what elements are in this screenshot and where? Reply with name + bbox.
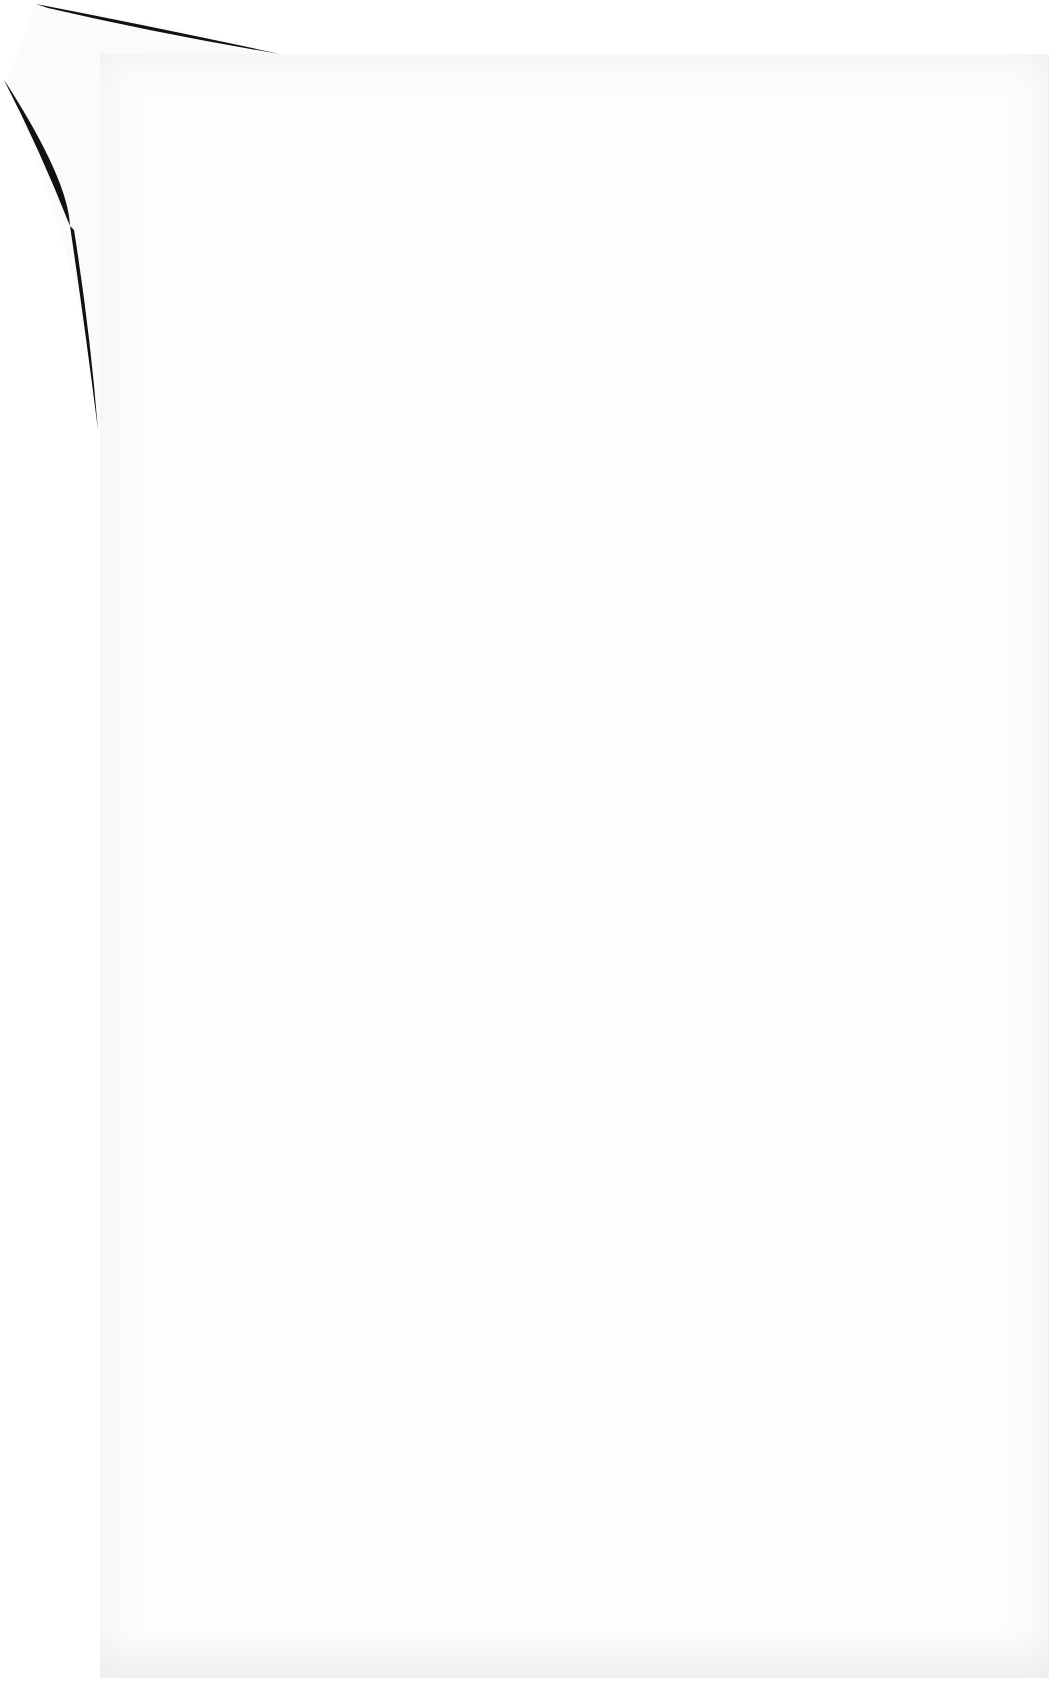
page-curl-shadow: [0, 0, 300, 460]
page-bottom-shadow: [100, 1628, 1048, 1678]
